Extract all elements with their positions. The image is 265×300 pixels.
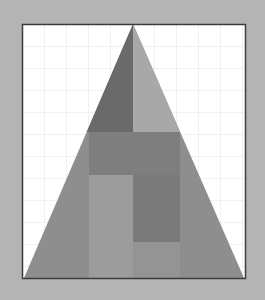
region-bottom-strip [133, 242, 180, 279]
region-middle-band [89, 132, 180, 175]
diagram-stage [0, 0, 265, 300]
triangle-diagram [0, 0, 265, 300]
region-lower-left-light [89, 175, 133, 279]
region-lower-right-dark [133, 175, 180, 242]
